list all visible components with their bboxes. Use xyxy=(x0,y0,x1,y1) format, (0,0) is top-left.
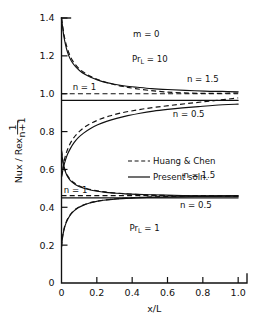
x-axis-title: x/L xyxy=(147,303,162,314)
y-axis-title: Nux / Rex1n+1 xyxy=(7,117,27,183)
data-curves xyxy=(62,18,239,247)
y-tick-label-7: 1.4 xyxy=(39,12,54,23)
y-tick-label-6: 1.2 xyxy=(39,50,54,61)
annotation-3: n = 1 xyxy=(73,82,97,92)
axis-titles: x/LNux / Rex1n+1 xyxy=(7,117,163,314)
legend-label-1: Present soln. xyxy=(153,172,208,182)
annotation-7: n = 0.5 xyxy=(180,200,212,210)
y-tick-label-3: 0.6 xyxy=(39,164,54,175)
annotation-0: m = 0 xyxy=(133,29,160,39)
annotation-1: PrL = 10 xyxy=(132,54,168,66)
annotation-2: n = 1.5 xyxy=(187,74,219,84)
figure-container: 00.20.40.60.81.01.21.400.20.40.60.81.0 m… xyxy=(0,0,265,325)
annotation-6: n = 1 xyxy=(64,185,88,195)
x-tick-label-0: 0 xyxy=(58,287,64,298)
y-tick-label-2: 0.4 xyxy=(39,202,54,213)
y-tick-label-0: 0 xyxy=(48,277,54,288)
x-tick-label-2: 0.4 xyxy=(125,287,140,298)
y-tick-label-4: 0.8 xyxy=(39,126,54,137)
x-tick-label-3: 0.6 xyxy=(160,287,175,298)
y-tick-label-5: 1.0 xyxy=(39,88,54,99)
annotation-4: n = 0.5 xyxy=(173,109,205,119)
y-tick-label-1: 0.2 xyxy=(39,240,54,251)
x-tick-label-4: 0.8 xyxy=(195,287,210,298)
y-exponent-denominator: n+1 xyxy=(16,117,27,137)
x-tick-label-1: 0.2 xyxy=(89,287,104,298)
y-axis-title-text: Nux / Rex xyxy=(13,137,24,183)
annotation-8: PrL = 1 xyxy=(129,223,159,235)
chart-canvas: 00.20.40.60.81.01.21.400.20.40.60.81.0 m… xyxy=(0,0,265,325)
x-tick-label-5: 1.0 xyxy=(231,287,246,298)
y-axis-exponent: 1n+1 xyxy=(7,117,27,137)
legend-label-0: Huang & Chen xyxy=(153,156,215,166)
curve-4 xyxy=(62,104,239,177)
